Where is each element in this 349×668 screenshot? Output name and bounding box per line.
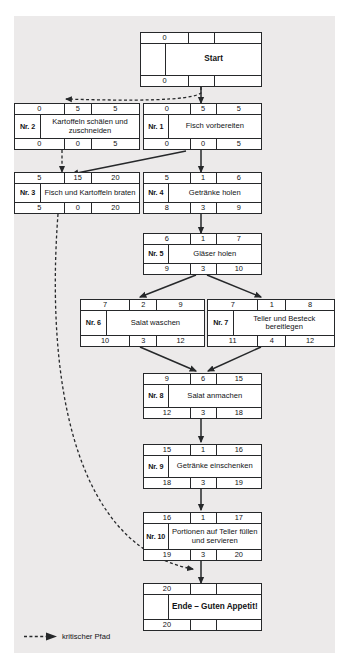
- node-nr10[interactable]: 16 1 17 Nr. 10 Portionen auf Teller füll…: [143, 512, 262, 561]
- node-nr4-fez: 6: [217, 173, 261, 183]
- node-nr3-mid-row: Nr. 3 Fisch und Kartoffeln braten: [15, 184, 139, 202]
- node-nr7-saz: 11: [208, 336, 258, 346]
- node-nr5-title: Gläser holen: [169, 245, 261, 263]
- node-nr6-nr: Nr. 6: [81, 311, 107, 335]
- node-nr5-top-row: 6 1 7: [144, 234, 261, 245]
- node-nr10-title: Portionen auf Teller füllen und serviere…: [169, 524, 261, 549]
- node-nr10-nr: Nr. 10: [144, 524, 169, 549]
- node-nr4-title: Getränke holen: [169, 184, 261, 202]
- node-nr2-saz: 0: [15, 139, 65, 149]
- node-nr3-title: Fisch und Kartoffeln braten: [41, 184, 139, 202]
- node-end-title: Ende – Guten Appetit!: [169, 595, 261, 619]
- node-nr10-gp: 3: [191, 550, 217, 560]
- node-nr6-title: Salat waschen: [107, 311, 204, 335]
- node-nr1-duration: 5: [191, 104, 217, 114]
- node-nr5-saz: 9: [144, 264, 191, 274]
- node-nr2-mid-row: Nr. 2 Kartoffeln schälen und zuschneiden: [15, 115, 139, 138]
- node-nr9-fez: 16: [217, 445, 261, 455]
- node-start-nr: [141, 44, 166, 75]
- node-nr1-title: Fisch vorbereiten: [169, 115, 261, 138]
- node-nr6-top-row: 7 2 9: [81, 300, 204, 311]
- node-end-nr: [144, 595, 169, 619]
- node-end-duration: [191, 584, 217, 594]
- node-nr2-faz: 0: [15, 104, 65, 114]
- node-nr9-top-row: 15 1 16: [144, 445, 261, 456]
- node-nr7-fez: 8: [286, 300, 334, 310]
- node-nr7-bottom-row: 11 4 12: [208, 335, 334, 346]
- connector-n1-to-n3: [72, 151, 186, 174]
- node-nr10-mid-row: Nr. 10 Portionen auf Teller füllen und s…: [144, 524, 261, 549]
- node-nr3-sez: 20: [92, 203, 139, 213]
- node-nr1-nr: Nr. 1: [144, 115, 169, 138]
- node-nr6-sez: 12: [157, 336, 204, 346]
- node-nr8-gp: 3: [191, 408, 217, 418]
- node-nr3-saz: 5: [15, 203, 65, 213]
- node-nr8-duration: 6: [191, 374, 217, 384]
- legend: kritischer Pfad: [24, 632, 110, 641]
- node-nr7[interactable]: 7 1 8 Nr. 7 Teller und Besteck bereitleg…: [207, 299, 335, 347]
- node-nr1-top-row: 0 5 5: [144, 104, 261, 115]
- node-nr10-duration: 1: [191, 513, 217, 523]
- node-nr7-top-row: 7 1 8: [208, 300, 334, 311]
- node-start-faz: 0: [141, 33, 189, 43]
- legend-label: kritischer Pfad: [62, 632, 110, 641]
- node-nr7-gp: 4: [258, 336, 286, 346]
- node-nr1[interactable]: 0 5 5 Nr. 1 Fisch vorbereiten 0 0 5: [143, 103, 262, 150]
- node-nr3-bottom-row: 5 0 20: [15, 202, 139, 213]
- node-nr3[interactable]: 5 15 20 Nr. 3 Fisch und Kartoffeln brate…: [14, 172, 140, 214]
- node-nr10-faz: 16: [144, 513, 191, 523]
- node-nr7-title: Teller und Besteck bereitlegen: [234, 311, 334, 335]
- node-nr9-nr: Nr. 9: [144, 456, 169, 477]
- node-nr8-saz: 12: [144, 408, 191, 418]
- node-nr10-top-row: 16 1 17: [144, 513, 261, 524]
- node-start-fez: [215, 33, 261, 43]
- node-nr9[interactable]: 15 1 16 Nr. 9 Getränke einschenken 18 3 …: [143, 444, 262, 489]
- node-nr1-faz: 0: [144, 104, 191, 114]
- node-nr4[interactable]: 5 1 6 Nr. 4 Getränke holen 8 3 9: [143, 172, 262, 214]
- node-nr8-bottom-row: 12 3 18: [144, 407, 261, 418]
- connector-n5-to-n6: [140, 275, 196, 297]
- node-nr6-mid-row: Nr. 6 Salat waschen: [81, 311, 204, 335]
- node-nr1-bottom-row: 0 0 5: [144, 138, 261, 149]
- node-end-fez: [217, 584, 261, 594]
- node-nr8-faz: 9: [144, 374, 191, 384]
- node-start[interactable]: 0 Start 0: [140, 32, 262, 87]
- node-nr1-mid-row: Nr. 1 Fisch vorbereiten: [144, 115, 261, 138]
- node-start-top-row: 0: [141, 33, 261, 44]
- connector-n5-to-n7: [207, 275, 261, 297]
- node-nr4-gp: 3: [191, 203, 217, 213]
- node-nr2-duration: 5: [65, 104, 92, 114]
- node-end[interactable]: 20 Ende – Guten Appetit! 20: [143, 583, 262, 631]
- node-nr8-top-row: 9 6 15: [144, 374, 261, 385]
- node-nr6[interactable]: 7 2 9 Nr. 6 Salat waschen 10 3 12: [80, 299, 205, 347]
- node-start-mid-row: Start: [141, 44, 261, 75]
- node-nr8[interactable]: 9 6 15 Nr. 8 Salat anmachen 12 3 18: [143, 373, 262, 419]
- node-nr3-fez: 20: [92, 173, 139, 183]
- node-nr1-sez: 5: [217, 139, 261, 149]
- node-nr5-bottom-row: 9 3 10: [144, 263, 261, 274]
- node-start-sez: [215, 76, 261, 86]
- node-nr3-faz: 5: [15, 173, 65, 183]
- connector-n7-to-n8: [208, 347, 261, 371]
- node-nr3-top-row: 5 15 20: [15, 173, 139, 184]
- node-nr1-gp: 0: [191, 139, 217, 149]
- node-nr5-faz: 6: [144, 234, 191, 244]
- node-nr4-bottom-row: 8 3 9: [144, 202, 261, 213]
- node-nr9-bottom-row: 18 3 19: [144, 477, 261, 488]
- node-nr5[interactable]: 6 1 7 Nr. 5 Gläser holen 9 3 10: [143, 233, 262, 275]
- node-nr1-saz: 0: [144, 139, 191, 149]
- node-end-top-row: 20: [144, 584, 261, 595]
- connector-start-to-n2-critical: [66, 87, 201, 100]
- node-nr8-sez: 18: [217, 408, 261, 418]
- node-nr2-sez: 5: [92, 139, 139, 149]
- node-nr4-mid-row: Nr. 4 Getränke holen: [144, 184, 261, 202]
- node-nr10-fez: 17: [217, 513, 261, 523]
- node-end-saz: 20: [144, 620, 191, 630]
- node-nr4-top-row: 5 1 6: [144, 173, 261, 184]
- node-nr2[interactable]: 0 5 5 Nr. 2 Kartoffeln schälen und zusch…: [14, 103, 140, 150]
- node-end-mid-row: Ende – Guten Appetit!: [144, 595, 261, 619]
- node-start-title: Start: [166, 44, 261, 75]
- node-nr10-saz: 19: [144, 550, 191, 560]
- node-nr5-duration: 1: [191, 234, 217, 244]
- node-nr1-fez: 5: [217, 104, 261, 114]
